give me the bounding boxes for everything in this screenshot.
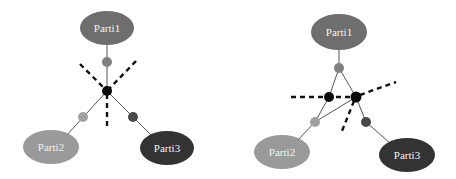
party-parti1: Parti1 <box>80 11 134 45</box>
cut-line-down <box>342 101 354 131</box>
party-label: Parti1 <box>326 26 352 38</box>
party-label: Parti3 <box>394 149 421 161</box>
party-parti3: Parti3 <box>379 138 435 172</box>
cut-line-right <box>360 82 396 95</box>
party-label: Parti2 <box>269 146 295 158</box>
cut-line-right <box>109 61 136 89</box>
party-label: Parti2 <box>38 141 64 153</box>
party-parti3: Parti3 <box>140 131 194 165</box>
left-diagram: Parti1 Parti2 Parti3 <box>23 11 194 165</box>
node-light <box>78 112 88 122</box>
party-label: Parti1 <box>94 22 120 34</box>
node-dark <box>361 117 371 127</box>
party-parti2: Parti2 <box>23 130 79 164</box>
node-mid <box>102 57 112 67</box>
right-diagram: Parti1 Parti2 Parti3 <box>254 14 435 172</box>
party-label: Parti3 <box>154 142 181 154</box>
diagram-canvas: Parti1 Parti2 Parti3 <box>0 0 456 179</box>
node-dark <box>128 112 138 122</box>
node-hub-2 <box>351 92 362 103</box>
node-hub <box>102 86 112 96</box>
node-mid <box>334 63 344 73</box>
cut-line-left <box>80 64 105 89</box>
party-parti2: Parti2 <box>254 135 310 169</box>
party-parti1: Parti1 <box>311 14 367 50</box>
node-hub-1 <box>324 92 334 102</box>
node-light <box>310 117 320 127</box>
